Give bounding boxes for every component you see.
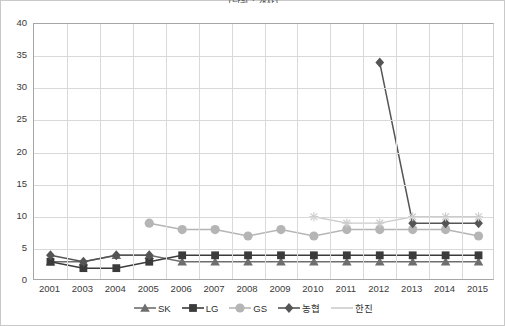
circle-marker [276, 225, 285, 234]
gridline-vertical [330, 24, 331, 279]
gridline-horizontal [34, 185, 493, 186]
gridline-horizontal [34, 153, 493, 154]
gridline-vertical [363, 24, 364, 279]
legend-label: SK [158, 303, 171, 314]
square-marker [112, 264, 120, 272]
gridline-vertical [67, 24, 68, 279]
x-axis-tick-label: 2015 [467, 283, 488, 294]
triangle-marker [134, 302, 156, 314]
diamond-marker [375, 58, 384, 68]
gridline-vertical [396, 24, 397, 279]
y-axis-tick-label: 40 [1, 18, 27, 28]
chart-frame: (단위 : 개사) 0510152025303540 2001200320042… [0, 0, 505, 326]
circle-marker [236, 303, 245, 312]
gridline-horizontal [34, 88, 493, 89]
y-axis-tick-label: 5 [1, 243, 27, 253]
legend-label: 한진 [355, 301, 373, 315]
circle-marker [178, 225, 187, 234]
circle-marker [243, 231, 252, 240]
circle-marker [474, 231, 483, 240]
gridline-horizontal [34, 56, 493, 57]
gridline-vertical [100, 24, 101, 279]
square-marker [182, 302, 204, 314]
legend-label: GS [253, 303, 267, 314]
square-marker [277, 251, 285, 259]
y-axis-tick-label: 25 [1, 115, 27, 125]
square-marker [189, 304, 197, 312]
x-axis-tick-label: 2005 [138, 283, 159, 294]
x-axis-tick-label: 2013 [401, 283, 422, 294]
legend-item-농협[interactable]: 농협 [278, 301, 320, 315]
legend-item-GS[interactable]: GS [229, 302, 267, 314]
line-marker [331, 302, 353, 314]
x-axis-labels: 2001200320042005200620072008200920102011… [33, 283, 494, 297]
y-axis-tick-label: 20 [1, 147, 27, 157]
y-axis-labels: 0510152025303540 [1, 23, 29, 280]
circle-marker [309, 231, 318, 240]
x-axis-tick-label: 2006 [171, 283, 192, 294]
chart-legend: SKLGGS농협한진 [1, 301, 505, 315]
circle-marker [145, 219, 154, 228]
square-marker [343, 251, 351, 259]
x-axis-tick-label: 2012 [368, 283, 389, 294]
y-axis-tick-label: 30 [1, 83, 27, 93]
y-axis-tick-label: 10 [1, 211, 27, 221]
legend-item-LG[interactable]: LG [182, 302, 219, 314]
x-axis-tick-label: 2003 [72, 283, 93, 294]
y-axis-tick-label: 35 [1, 50, 27, 60]
gridline-vertical [429, 24, 430, 279]
legend-label: 농협 [302, 301, 320, 315]
gridline-vertical [265, 24, 266, 279]
gridline-vertical [199, 24, 200, 279]
x-axis-tick-label: 2009 [269, 283, 290, 294]
gridline-vertical [232, 24, 233, 279]
gridline-horizontal [34, 217, 493, 218]
square-marker [376, 251, 384, 259]
square-marker [244, 251, 252, 259]
gridline-horizontal [34, 249, 493, 250]
x-axis-tick-label: 2001 [39, 283, 60, 294]
circle-marker [229, 302, 251, 314]
diamond-marker [285, 303, 294, 313]
legend-item-한진[interactable]: 한진 [331, 301, 373, 315]
y-axis-tick-label: 0 [1, 275, 27, 285]
gridline-horizontal [34, 120, 493, 121]
gridline-vertical [297, 24, 298, 279]
plot-area [33, 23, 494, 280]
square-marker [442, 251, 450, 259]
square-marker [211, 251, 219, 259]
square-marker [178, 251, 186, 259]
square-marker [475, 251, 483, 259]
gridline-vertical [133, 24, 134, 279]
x-axis-tick-label: 2014 [434, 283, 455, 294]
legend-item-SK[interactable]: SK [134, 302, 171, 314]
y-axis-tick-label: 15 [1, 179, 27, 189]
x-axis-tick-label: 2010 [302, 283, 323, 294]
star-marker [375, 219, 384, 228]
star-marker [342, 219, 351, 228]
square-marker [310, 251, 318, 259]
series-GS [145, 219, 483, 241]
x-axis-tick-label: 2004 [105, 283, 126, 294]
diamond-marker [278, 302, 300, 314]
x-axis-tick-label: 2011 [336, 283, 356, 294]
legend-label: LG [206, 303, 219, 314]
x-axis-tick-label: 2008 [236, 283, 257, 294]
chart-title: (단위 : 개사) [1, 0, 505, 3]
x-axis-tick-label: 2007 [204, 283, 225, 294]
gridline-vertical [166, 24, 167, 279]
circle-marker [211, 225, 220, 234]
square-marker [409, 251, 417, 259]
gridline-vertical [462, 24, 463, 279]
